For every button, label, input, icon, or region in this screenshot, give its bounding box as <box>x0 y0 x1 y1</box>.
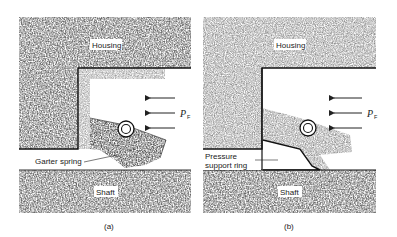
pressure-label-a: P <box>179 108 186 119</box>
pressure-support-ring-label-line1: Pressure <box>205 152 238 161</box>
garter-spring-b <box>300 120 316 136</box>
pressure-support-ring-label-line2: support ring <box>205 161 247 170</box>
garter-spring-leader <box>84 155 117 162</box>
caption-b: (b) <box>284 222 294 231</box>
panel-b: Housing Shaft P F Pressure support ring … <box>203 17 378 231</box>
seal-diagram: Housing Shaft P F Garter spring (a) <box>0 0 397 237</box>
shaft-label-a: Shaft <box>96 188 115 197</box>
housing-label-b: Housing <box>276 41 305 50</box>
pressure-subscript-a: F <box>187 114 191 120</box>
caption-a: (a) <box>104 222 114 231</box>
pressure-arrows-b <box>334 98 362 128</box>
shaft-label-b: Shaft <box>280 188 299 197</box>
housing-label-a: Housing <box>92 41 121 50</box>
garter-spring-a <box>118 121 134 137</box>
panel-a: Housing Shaft P F Garter spring (a) <box>19 17 191 231</box>
garter-spring-label: Garter spring <box>35 157 82 166</box>
pressure-subscript-b: F <box>374 114 378 120</box>
pressure-label-b: P <box>366 108 373 119</box>
pressure-arrows-a <box>150 98 175 128</box>
